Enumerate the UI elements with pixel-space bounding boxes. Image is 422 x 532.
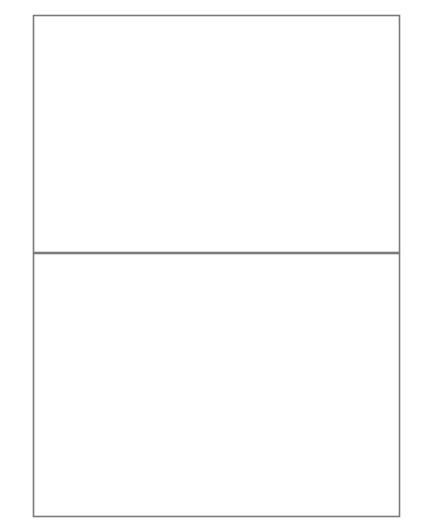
top-panel — [34, 16, 400, 253]
top-panel-frame — [34, 16, 400, 253]
figure-container — [0, 0, 422, 532]
bottom-panel — [34, 254, 400, 517]
plot-svg — [0, 0, 422, 532]
bottom-panel-frame — [34, 254, 400, 517]
